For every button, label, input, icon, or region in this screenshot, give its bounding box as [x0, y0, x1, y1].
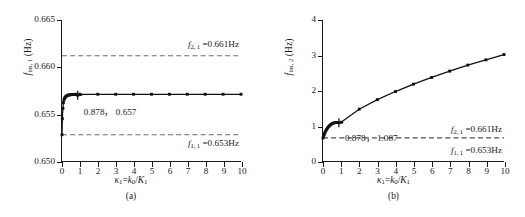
- y-tick-label-b: 0: [311, 157, 316, 166]
- data-marker-b: [394, 90, 397, 93]
- data-marker-a: [96, 93, 99, 96]
- data-marker-a: [114, 93, 117, 96]
- data-marker-b: [358, 108, 361, 111]
- y-tick-a: [57, 67, 62, 68]
- plot-area-b: 01234012345678910f2, 1 =0.661Hzf1, 1 =0.…: [322, 20, 504, 162]
- y-tick-b: [318, 91, 323, 92]
- data-marker-a: [132, 93, 135, 96]
- data-marker-b: [448, 70, 451, 73]
- subcaption-a: (a): [0, 191, 262, 201]
- data-marker-a: [61, 107, 64, 110]
- data-marker-a: [240, 93, 243, 96]
- reference-line-label-b-1: f1, 1 =0.653Hz: [451, 146, 502, 155]
- y-tick-label-a: 0.650: [34, 157, 55, 166]
- y-tick-label-b: 2: [311, 86, 316, 95]
- y-axis-label-a: fim, 1 (Hz): [23, 17, 33, 97]
- y-tick-label-a: 0.665: [34, 15, 55, 24]
- data-marker-a: [222, 93, 225, 96]
- data-marker-b: [503, 53, 506, 56]
- data-marker-b: [430, 76, 433, 79]
- data-marker-a: [186, 93, 189, 96]
- data-marker-b: [412, 83, 415, 86]
- y-tick-label-b: 1: [311, 122, 316, 131]
- data-marker-a: [204, 93, 207, 96]
- y-tick-b: [318, 127, 323, 128]
- annotation-label-a: 0.878， 0.657: [84, 108, 137, 117]
- data-marker-b: [484, 58, 487, 61]
- y-axis-label-b: fim, 2 (Hz): [284, 17, 294, 97]
- data-marker-a: [168, 93, 171, 96]
- figure-container: fim, 1 (Hz) 0.6500.6550.6600.66501234567…: [0, 0, 525, 217]
- y-tick-a: [57, 115, 62, 116]
- y-tick-b: [318, 56, 323, 57]
- annotation-marker-a: [73, 91, 82, 100]
- annotation-marker-b: [334, 118, 343, 127]
- reference-line-label-a-1: f1, 1 =0.653Hz: [188, 140, 239, 149]
- y-tick-label-b: 3: [311, 51, 316, 60]
- data-marker-a: [150, 93, 153, 96]
- data-marker-b: [376, 98, 379, 101]
- y-tick-label-a: 0.655: [34, 110, 55, 119]
- y-tick-a: [57, 20, 62, 21]
- plot-area-a: 0.6500.6550.6600.665012345678910f2, 1 =0…: [61, 20, 241, 162]
- annotation-label-b: 0.878， 1.087: [345, 134, 398, 143]
- reference-line-label-b-0: f2, 1 =0.661Hz: [451, 125, 502, 134]
- y-tick-b: [318, 20, 323, 21]
- chart-panel-a: fim, 1 (Hz) 0.6500.6550.6600.66501234567…: [0, 0, 262, 217]
- data-marker-a: [61, 133, 64, 136]
- subcaption-b: (b): [262, 191, 525, 201]
- data-marker-a: [61, 117, 64, 120]
- data-marker-b: [466, 64, 469, 67]
- reference-line-label-a-0: f2, 1 =0.661Hz: [188, 40, 239, 49]
- x-axis-label-a: κ1=k0/K1: [0, 175, 262, 185]
- chart-panel-b: fim, 2 (Hz) 01234012345678910f2, 1 =0.66…: [262, 0, 525, 217]
- x-axis-label-b: κ1=k0/K1: [262, 175, 525, 185]
- y-tick-label-b: 4: [311, 15, 316, 24]
- data-marker-a: [62, 101, 65, 104]
- y-tick-label-a: 0.660: [34, 63, 55, 72]
